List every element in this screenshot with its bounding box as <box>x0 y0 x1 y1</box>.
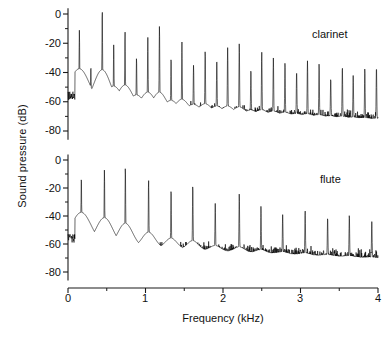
trace-flute <box>68 169 378 258</box>
trace-clarinet <box>68 12 378 118</box>
spectrum-figure: Sound pressure (dB) Frequency (kHz) clar… <box>0 0 390 340</box>
plot-canvas <box>0 0 390 340</box>
axes-layer <box>63 8 378 293</box>
